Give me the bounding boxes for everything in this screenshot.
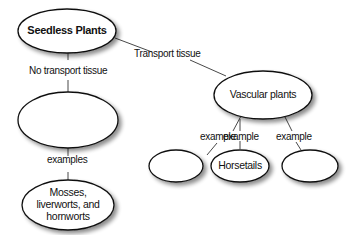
link-label-transport-tissue: Transport tissue [134, 48, 201, 59]
mosses-line-3: hornworts [20, 210, 116, 222]
node-label-seedless-plants: Seedless Plants [18, 24, 116, 36]
link-label-no-transport-tissue: No transport tissue [29, 65, 107, 76]
node-label-mosses: Mosses, liverworts, and hornworts [20, 186, 116, 222]
mosses-line-1: Mosses, [20, 186, 116, 198]
link-label-examples: examples [47, 154, 87, 165]
link-label-example-3: example [276, 131, 312, 142]
node-label-horsetails: Horsetails [211, 159, 269, 171]
node-nonvascular-empty[interactable] [18, 92, 118, 148]
node-label-vascular-plants: Vascular plants [214, 88, 312, 100]
node-example-right-empty[interactable] [282, 150, 338, 182]
mosses-line-2: liverworts, and [20, 198, 116, 210]
link-label-example-2: example [223, 131, 259, 142]
node-example-left-empty[interactable] [149, 150, 203, 182]
